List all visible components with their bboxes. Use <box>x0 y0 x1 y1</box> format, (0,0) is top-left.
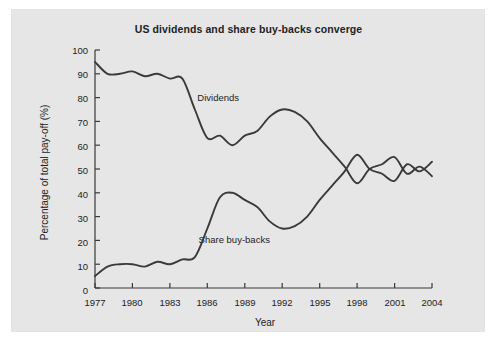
chart-figure: US dividends and share buy-backs converg… <box>0 0 497 343</box>
x-axis-ticks <box>95 283 432 288</box>
series-line-share-buy-backs <box>95 155 432 276</box>
axes <box>95 50 432 288</box>
data-series <box>95 62 432 276</box>
y-axis-ticks <box>95 50 100 288</box>
chart-plot <box>0 0 497 343</box>
series-line-dividends <box>95 62 432 183</box>
